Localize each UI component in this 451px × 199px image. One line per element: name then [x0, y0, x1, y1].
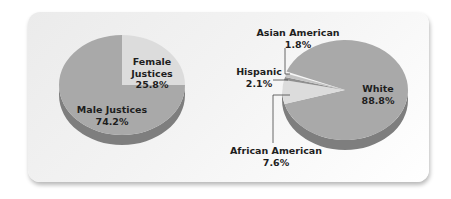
african-label-line1: African American	[228, 145, 324, 157]
african-american-label: African American 7.6%	[228, 145, 324, 168]
hispanic-label-line1: Hispanic	[235, 66, 283, 78]
white-label-line1: White	[350, 83, 406, 95]
male-justices-label: Male Justices 74.2%	[72, 104, 152, 127]
female-label-line1: Female	[124, 56, 180, 68]
hispanic-label-value: 2.1%	[235, 78, 283, 90]
white-label: White 88.8%	[350, 83, 406, 106]
female-justices-label: Female Justices 25.8%	[124, 56, 180, 91]
male-label-value: 74.2%	[72, 116, 152, 128]
asian-label-value: 1.8%	[250, 39, 346, 51]
asian-american-label: Asian American 1.8%	[250, 27, 346, 50]
hispanic-label: Hispanic 2.1%	[235, 66, 283, 89]
female-label-value: 25.8%	[124, 79, 180, 91]
white-label-value: 88.8%	[350, 95, 406, 107]
male-label-line1: Male Justices	[72, 104, 152, 116]
asian-label-line1: Asian American	[250, 27, 346, 39]
female-label-line2: Justices	[124, 68, 180, 80]
african-label-value: 7.6%	[228, 157, 324, 169]
